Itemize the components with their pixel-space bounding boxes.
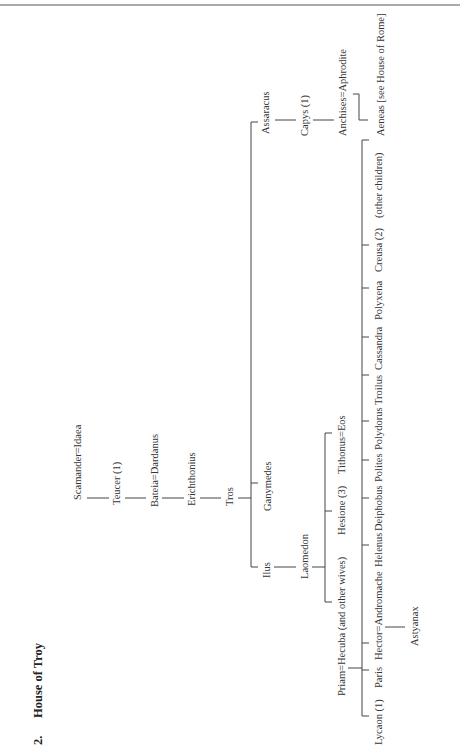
node-astyanax: Astyanax xyxy=(409,606,420,646)
child-hector: Hector=Andromache xyxy=(373,571,384,660)
node-priam: Priam=Hecuba (and other wives) xyxy=(336,556,348,696)
node-hesione: Hesione (3) xyxy=(336,485,348,535)
family-tree-page: 2. House of Troy Scamander=Idaea Teucer … xyxy=(0,0,463,750)
child-paris: Paris xyxy=(373,667,384,688)
node-ganymedes: Ganymedes xyxy=(262,461,273,511)
node-erichthonius: Erichthonius xyxy=(186,452,197,506)
house-of-troy-diagram: 2. House of Troy Scamander=Idaea Teucer … xyxy=(0,0,463,750)
child-deiphobus: Deiphobus xyxy=(373,486,384,532)
child-polyxena: Polyxena xyxy=(373,281,384,320)
node-aeneas: Aeneas [see House of Rome] xyxy=(375,14,386,136)
node-laomedon: Laomedon xyxy=(299,533,310,579)
child-lycaon: Lycaon (1) xyxy=(373,699,385,745)
node-anchises: Anchises=Aphrodite xyxy=(337,49,348,136)
node-capys: Capys (1) xyxy=(299,94,311,136)
child-other: (other children) xyxy=(373,152,385,218)
node-teucer: Teucer (1) xyxy=(111,461,123,505)
section-title: House of Troy xyxy=(31,642,45,718)
node-ilus: Ilus xyxy=(261,562,272,578)
node-tithonus: Tithonus=Eos xyxy=(336,415,347,474)
child-polites: Polites xyxy=(373,453,384,482)
node-assaracus: Assaracus xyxy=(260,91,271,134)
node-scamander: Scamander=Idaea xyxy=(72,424,83,500)
section-number: 2. xyxy=(31,736,45,745)
child-troilus: Troilus xyxy=(373,375,384,405)
section-heading: 2. House of Troy xyxy=(31,642,45,745)
child-helenus: Helenus xyxy=(373,533,384,567)
node-tros: Tros xyxy=(224,487,235,506)
child-creusa: Creusa (2) xyxy=(373,227,385,272)
child-cassandra: Cassandra xyxy=(373,327,384,370)
link-anchises-aeneas xyxy=(353,94,368,120)
child-polydorus: Polydorus xyxy=(373,407,384,450)
node-bateia: Bateia=Dardanus xyxy=(149,434,160,507)
